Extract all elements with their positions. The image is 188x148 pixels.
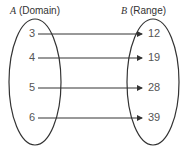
range-value: 39 (148, 111, 160, 123)
range-value: 12 (148, 27, 160, 39)
range-value: 19 (148, 51, 160, 63)
mapping-diagram (0, 0, 188, 148)
domain-value: 6 (29, 111, 35, 123)
domain-value: 4 (29, 51, 35, 63)
domain-value: 5 (29, 81, 35, 93)
range-value: 28 (148, 81, 160, 93)
domain-value: 3 (29, 27, 35, 39)
